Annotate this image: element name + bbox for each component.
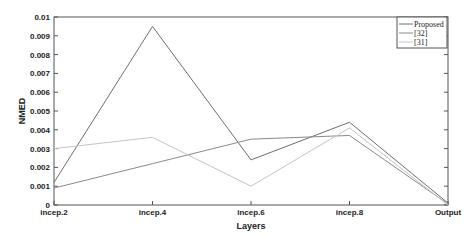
y-tick-label: 0.003 [30,145,51,154]
y-tick-label: 0.009 [30,32,51,41]
legend-label: [31] [414,38,428,47]
axes-box [54,17,448,205]
x-tick-label: Output [435,208,462,217]
y-tick-label: 0.005 [30,107,51,116]
y-tick-label: 0.001 [30,182,51,191]
y-tick-label: 0.008 [30,51,51,60]
y-tick-label: 0.007 [30,69,51,78]
legend-label: Proposed [414,20,444,29]
series-line-proposed [54,26,448,203]
plot-area: 00.0010.0020.0030.0040.0050.0060.0070.00… [30,13,461,217]
series-line-32 [54,135,448,204]
legend-label: [32] [414,29,428,38]
legend: Proposed[32][31] [397,17,447,48]
y-tick-label: 0.006 [30,88,51,97]
x-tick-label: incep.8 [336,208,364,217]
y-tick-label: 0.01 [34,13,50,22]
x-axis-title: Layers [236,221,265,231]
x-tick-label: incep.2 [40,208,68,217]
y-tick-label: 0.004 [30,126,51,135]
y-tick-label: 0.002 [30,163,51,172]
x-tick-label: incep.6 [237,208,265,217]
y-axis-title: NMED [17,97,27,124]
x-tick-label: incep.4 [139,208,167,217]
line-chart: 00.0010.0020.0030.0040.0050.0060.0070.00… [0,0,476,237]
